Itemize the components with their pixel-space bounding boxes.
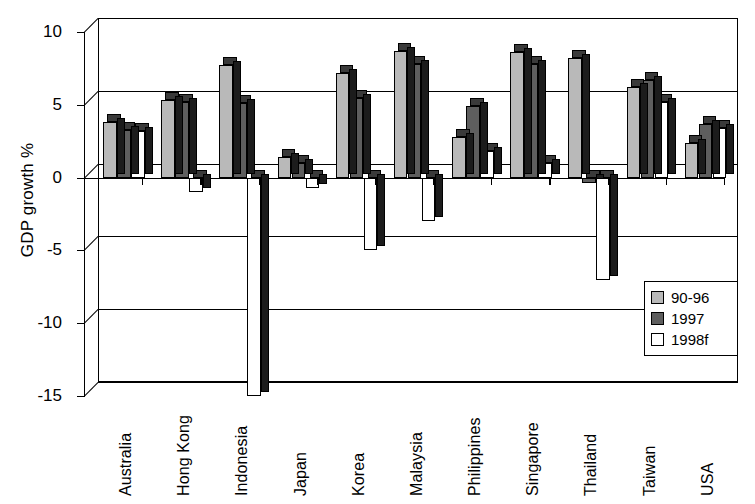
bar-front-face <box>278 157 292 177</box>
y-axis-tick-labels: 1050-5-10-15 <box>12 0 62 504</box>
y-tick-label: -5 <box>16 241 62 258</box>
legend: 90-96 1997 1998f <box>644 281 738 356</box>
bar-front-face <box>685 143 699 178</box>
bar <box>596 178 610 280</box>
bar-side-face <box>494 147 502 173</box>
bar-front-face <box>103 122 117 177</box>
x-axis-category-label: USA <box>699 463 717 496</box>
legend-item: 1997 <box>651 308 731 329</box>
bar <box>510 52 524 177</box>
bar-side-face <box>435 174 443 218</box>
bar-front-face <box>161 100 175 177</box>
x-axis-tick-mark <box>142 178 143 185</box>
bar-front-face <box>568 58 582 177</box>
y-tick-label: 0 <box>16 169 62 186</box>
bar-side-face <box>291 153 299 173</box>
bar-side-face <box>421 60 429 174</box>
x-axis-category-label: Malaysia <box>408 432 426 496</box>
bar-front-face <box>364 178 378 251</box>
x-axis-tick-mark <box>491 178 492 185</box>
bar-front-face <box>336 73 350 178</box>
bar-side-face <box>524 48 532 173</box>
bar-side-face <box>538 60 546 174</box>
x-axis-category-label: Korea <box>350 453 368 496</box>
bar-side-face <box>247 99 255 173</box>
bar <box>452 137 466 178</box>
bar-front-face <box>452 137 466 178</box>
legend-swatch-1997 <box>651 312 664 325</box>
legend-label-1998f: 1998f <box>671 332 709 347</box>
bar-side-face <box>480 102 488 173</box>
bar <box>103 122 117 177</box>
x-axis-tick-mark <box>375 178 376 185</box>
bar-side-face <box>145 127 153 174</box>
bar-front-face <box>247 178 261 396</box>
y-tick-label: -15 <box>16 387 62 404</box>
bar-side-face <box>610 174 618 276</box>
bar <box>219 65 233 177</box>
bar <box>627 87 641 177</box>
x-axis-tick-mark <box>84 178 85 185</box>
x-axis-tick-mark <box>317 178 318 185</box>
legend-label-90-96: 90-96 <box>671 290 709 305</box>
bar-side-face <box>640 83 648 173</box>
x-axis-tick-mark <box>259 178 260 185</box>
bar-front-face <box>394 51 408 178</box>
bar-side-face <box>261 174 269 392</box>
legend-item: 90-96 <box>651 287 731 308</box>
bar-side-face <box>712 120 720 174</box>
bar <box>336 73 350 178</box>
x-axis-category-label: Australia <box>117 433 135 496</box>
x-axis-category-label: Philippines <box>466 418 484 496</box>
bar-side-face <box>582 54 590 173</box>
x-axis-category-label: Singapore <box>524 422 542 496</box>
bars-layer <box>84 18 738 400</box>
legend-swatch-90-96 <box>651 291 664 304</box>
bar <box>278 157 292 177</box>
x-axis-tick-mark <box>608 178 609 185</box>
x-axis-tick-mark <box>549 178 550 185</box>
plot-area <box>84 18 738 382</box>
bar-side-face <box>466 133 474 174</box>
legend-label-1997: 1997 <box>671 311 704 326</box>
bar-side-face <box>305 159 313 174</box>
bar-side-face <box>552 159 560 174</box>
x-axis-category-label: Japan <box>292 452 310 496</box>
bar <box>394 51 408 178</box>
bar-side-face <box>654 76 662 174</box>
bar <box>161 100 175 177</box>
gdp-growth-bar-chart: GDP growth % 1050-5-10-15 AustraliaHong … <box>0 0 755 504</box>
bar-front-face <box>596 178 610 280</box>
x-axis-category-label: Hong Kong <box>175 415 193 496</box>
legend-item: 1998f <box>651 329 731 350</box>
bar <box>685 143 699 178</box>
x-axis-tick-mark <box>433 178 434 185</box>
bar-side-face <box>349 69 357 174</box>
bar-front-face <box>219 65 233 177</box>
bar-front-face <box>510 52 524 177</box>
y-tick-label: 5 <box>16 96 62 113</box>
x-axis-tick-mark <box>666 178 667 185</box>
y-tick-label: 10 <box>16 23 62 40</box>
bar-side-face <box>131 126 139 174</box>
bar-side-face <box>363 94 371 174</box>
bar-side-face <box>596 174 604 180</box>
legend-swatch-1998f <box>651 333 664 346</box>
bar-side-face <box>117 118 125 173</box>
bar <box>568 58 582 177</box>
bar-side-face <box>203 174 211 189</box>
x-axis-category-label: Thailand <box>582 434 600 496</box>
y-tick-label: -10 <box>16 314 62 331</box>
bar <box>582 178 596 184</box>
bar-side-face <box>175 96 183 173</box>
bar-side-face <box>189 98 197 174</box>
bar-side-face <box>726 124 734 174</box>
x-axis-tick-mark <box>200 178 201 185</box>
x-axis-category-labels: AustraliaHong KongIndonesiaJapanKoreaMal… <box>84 384 738 504</box>
bar <box>364 178 378 251</box>
x-axis-tick-mark <box>724 178 725 185</box>
bar-front-face <box>582 178 596 184</box>
bar-side-face <box>698 139 706 174</box>
bar-side-face <box>319 174 327 184</box>
bar-side-face <box>377 174 385 247</box>
